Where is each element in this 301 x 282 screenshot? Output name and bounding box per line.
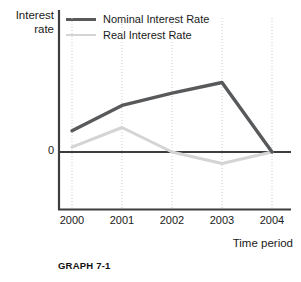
x-axis-title: Time period [233,236,293,250]
x-tick-label-2004: 2004 [249,214,295,227]
x-tick-label-2001: 2001 [99,214,145,227]
graph-figure: Interest rate Nominal Interest Rate Real… [0,0,301,282]
plot-area [0,0,301,225]
figure-caption: GRAPH 7-1 [58,260,110,272]
y-tick-label-zero: 0 [40,144,54,157]
x-tick-label-2002: 2002 [149,214,195,227]
x-tick-label-2000: 2000 [49,214,95,227]
chart-canvas [0,0,301,225]
x-tick-label-2003: 2003 [199,214,245,227]
axis-lines [58,10,291,210]
gridlines [72,18,272,209]
